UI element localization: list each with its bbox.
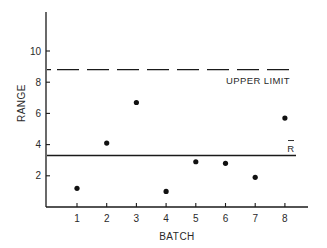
x-axis-title: BATCH [159, 231, 195, 242]
control-chart: 246810 12345678 UPPER LIMIT R BATCH RANG… [0, 0, 327, 248]
x-ticks: 12345678 [74, 203, 288, 224]
y-tick-label: 2 [35, 170, 41, 181]
r-bar-text: R [287, 143, 294, 154]
x-tick-label: 6 [223, 213, 229, 224]
x-tick-label: 5 [193, 213, 199, 224]
x-tick-label: 2 [104, 213, 110, 224]
y-axis-title: RANGE [16, 84, 27, 122]
data-point [164, 189, 169, 194]
r-bar-label: R [287, 141, 294, 154]
data-point [74, 186, 79, 191]
data-point [223, 161, 228, 166]
x-tick-label: 7 [252, 213, 258, 224]
y-tick-label: 8 [35, 77, 41, 88]
x-tick-label: 4 [163, 213, 169, 224]
y-tick-label: 10 [30, 46, 42, 57]
data-points [74, 100, 287, 194]
data-point [253, 175, 258, 180]
data-point [104, 140, 109, 145]
y-tick-label: 6 [35, 108, 41, 119]
y-tick-label: 4 [35, 139, 41, 150]
data-point [193, 159, 198, 164]
y-ticks: 246810 [30, 46, 50, 182]
x-tick-label: 3 [134, 213, 140, 224]
data-point [282, 115, 287, 120]
axes [46, 12, 308, 207]
x-tick-label: 1 [74, 213, 80, 224]
data-point [134, 100, 139, 105]
upper-limit-label: UPPER LIMIT [226, 75, 290, 86]
x-tick-label: 8 [282, 213, 288, 224]
